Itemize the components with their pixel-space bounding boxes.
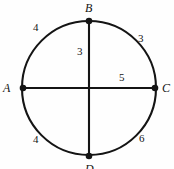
vertex-dot-A <box>20 85 27 92</box>
circle-diagram-canvas <box>0 0 174 169</box>
vertex-dot-B <box>86 18 93 25</box>
geometry-figure: A B C D 4 3 4 6 3 5 <box>0 0 174 169</box>
vertex-dot-D <box>86 153 93 160</box>
arc-measure-bottom-left: 4 <box>33 134 39 145</box>
chord-measure-horizontal-right: 5 <box>119 72 125 83</box>
arc-measure-top-right: 3 <box>138 33 144 44</box>
arc-measure-top-left: 4 <box>33 22 39 33</box>
vertex-dot-C <box>152 85 159 92</box>
vertex-label-a: A <box>3 82 10 94</box>
vertex-label-d: D <box>85 163 94 169</box>
vertex-label-b: B <box>85 2 92 14</box>
arc-measure-bottom-right: 6 <box>139 133 145 144</box>
vertex-label-c: C <box>162 82 170 94</box>
chord-measure-vertical-upper: 3 <box>77 46 83 57</box>
